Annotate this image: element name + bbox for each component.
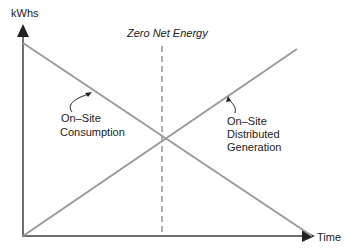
y-axis-label: kWhs: [11, 7, 39, 19]
zero-net-energy-diagram: kWhs Time Zero Net Energy On–Site Consum…: [0, 0, 348, 249]
zero-net-energy-label: Zero Net Energy: [126, 27, 209, 39]
y-axis-arrow-icon: [17, 24, 29, 37]
generation-label-line3: Generation: [227, 141, 281, 153]
consumption-pointer-arrow-icon: [70, 94, 89, 112]
generation-label-line2: Distributed: [227, 128, 280, 140]
x-axis-label: Time: [317, 231, 341, 243]
generation-label-line1: On–Site: [227, 115, 267, 127]
consumption-label-line1: On–Site: [61, 112, 101, 124]
diagram-canvas: kWhs Time Zero Net Energy On–Site Consum…: [0, 0, 348, 249]
consumption-label-line2: Consumption: [60, 126, 125, 138]
